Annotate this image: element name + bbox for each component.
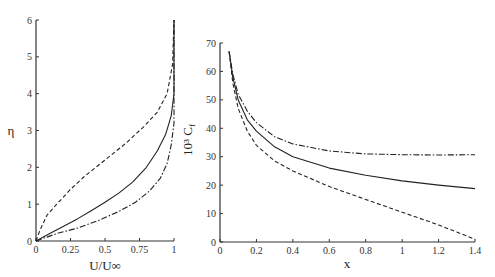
x-tick-label: 1	[172, 244, 177, 255]
x-tick-label: 0.6	[323, 245, 336, 256]
series-solid	[229, 52, 475, 189]
x-tick-label: 0.25	[62, 244, 80, 255]
x-tick-label: 0	[218, 245, 223, 256]
y-tick-label: 4	[27, 88, 32, 99]
y-tick-label: 20	[206, 180, 216, 191]
y-tick-label: 5	[27, 51, 32, 62]
y-axis-label-group: 10³ Cf	[180, 124, 197, 156]
x-tick-label: 1.2	[432, 245, 445, 256]
y-axis-label: η	[8, 123, 15, 138]
y-tick-label: 70	[206, 38, 216, 49]
y-tick-label: 2	[27, 162, 32, 173]
y-tick-label: 0	[211, 237, 216, 248]
y-tick-label: 1	[27, 199, 32, 210]
series-dash-dot	[36, 20, 174, 241]
y-tick-label: 40	[206, 123, 216, 134]
x-tick-label: 0	[34, 244, 39, 255]
x-tick-label: 0.8	[359, 245, 372, 256]
y-tick-label: 50	[206, 94, 216, 105]
y-tick-label: 3	[27, 125, 32, 136]
y-tick-label: 0	[27, 236, 32, 247]
x-tick-label: 1.4	[469, 245, 482, 256]
x-tick-label: 1	[400, 245, 405, 256]
skin-friction-curves	[229, 52, 475, 240]
x-tick-label: 0.75	[131, 244, 149, 255]
x-axis-label: x	[344, 256, 351, 271]
figure: 00.250.50.7510123456 U/U∞ η 00.20.40.60.…	[0, 0, 495, 277]
series-dashed	[36, 20, 174, 241]
x-tick-label: 0.5	[99, 244, 112, 255]
velocity-profile-chart: 00.250.50.7510123456 U/U∞ η	[8, 15, 177, 274]
y-tick-label: 6	[27, 15, 32, 26]
skin-friction-chart: 00.20.40.60.811.21.4010203040506070 x 10…	[180, 38, 481, 272]
y-tick-label: 60	[206, 66, 216, 77]
y-axis-label: 10³ Cf	[180, 124, 197, 156]
y-tick-label: 10	[206, 208, 216, 219]
x-tick-label: 0.2	[250, 245, 263, 256]
x-axis-label: U/U∞	[89, 258, 121, 273]
series-dashed	[229, 52, 475, 240]
velocity-profile-curves	[36, 20, 174, 241]
series-solid	[36, 20, 174, 241]
skin-friction-axes: 00.20.40.60.811.21.4010203040506070	[206, 38, 481, 257]
x-tick-label: 0.4	[287, 245, 300, 256]
y-tick-label: 30	[206, 151, 216, 162]
